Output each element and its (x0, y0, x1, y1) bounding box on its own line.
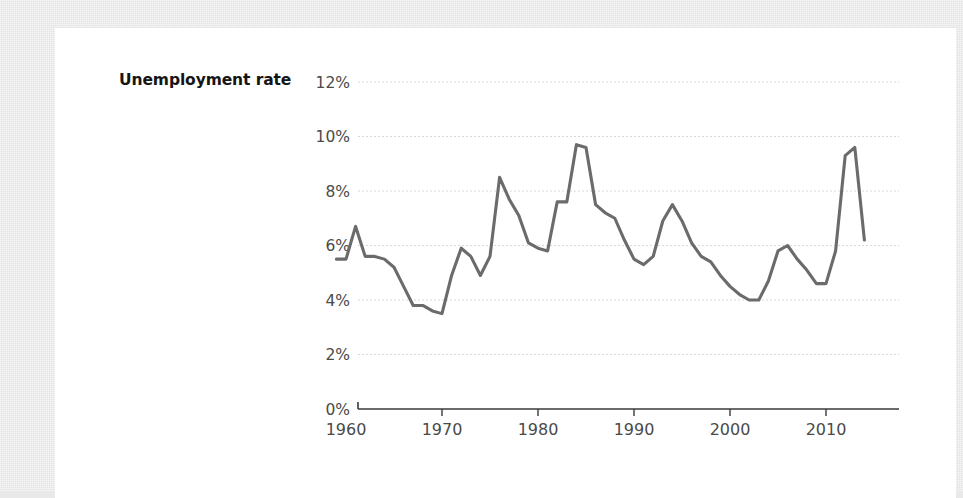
y-axis-tick-label: 10% (316, 128, 350, 146)
unemployment-rate-line-chart: 12%10%8%6%4%2%0% 19601970198019902000201… (55, 28, 956, 498)
x-axis-tick-label: 2000 (710, 420, 751, 439)
x-axis-tick-labels: 196019701980199020002010 (326, 420, 847, 439)
y-axis-tick-label: 0% (325, 401, 350, 419)
x-axis-tick-label: 1960 (326, 420, 367, 439)
x-axis-tick-label: 2010 (806, 420, 847, 439)
y-axis-tick-labels: 12%10%8%6%4%2%0% (316, 74, 350, 419)
y-axis-tick-label: 2% (325, 346, 350, 364)
x-axis-tick-label: 1970 (422, 420, 463, 439)
y-axis-tick-label: 12% (316, 74, 350, 92)
x-axis-tick-label: 1980 (518, 420, 559, 439)
chart-card: Unemployment rate 12%10%8%6%4%2%0% 19601… (55, 28, 956, 498)
x-axis-group (358, 402, 899, 416)
chart-container: Unemployment rate 12%10%8%6%4%2%0% 19601… (55, 28, 956, 498)
y-axis-tick-label: 8% (325, 183, 350, 201)
y-axis-tick-label: 4% (325, 292, 350, 310)
x-axis-tick-label: 1990 (614, 420, 655, 439)
y-axis-tick-label: 6% (325, 237, 350, 255)
unemployment-rate-series (336, 145, 864, 314)
